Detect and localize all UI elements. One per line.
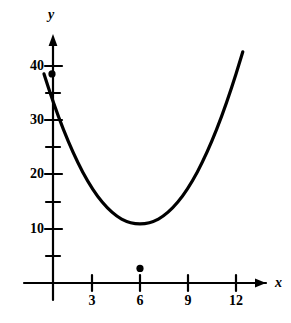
y-tick-label-40: 40 [30, 59, 44, 73]
parabola-curve [44, 52, 243, 224]
x-axis-label: x [275, 276, 282, 290]
graph-canvas [0, 0, 291, 323]
parabola-figure: y x 40 30 20 10 3 6 9 12 [0, 0, 291, 323]
y-tick-label-30: 30 [30, 113, 44, 127]
x-tick-label-12: 12 [229, 294, 243, 308]
y-tick-label-10: 10 [30, 222, 44, 236]
y-intercept-point-marker [48, 70, 55, 77]
vertex-point-marker [136, 265, 143, 272]
y-axis-label: y [48, 8, 54, 22]
y-tick-label-20: 20 [30, 167, 44, 181]
x-axis-arrow-icon [255, 279, 266, 288]
x-tick-label-3: 3 [89, 294, 96, 308]
x-tick-label-6: 6 [137, 294, 144, 308]
y-axis-arrow-icon [49, 34, 58, 46]
x-tick-label-9: 9 [185, 294, 192, 308]
